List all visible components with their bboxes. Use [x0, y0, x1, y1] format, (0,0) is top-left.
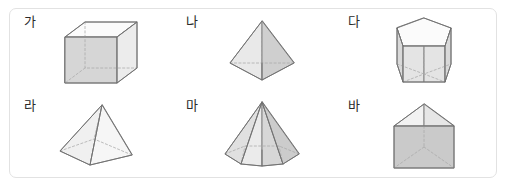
- triangular-pyramid-icon: [222, 17, 302, 89]
- square-pyramid-icon: [54, 101, 146, 173]
- figure-label-ra: 라: [24, 99, 36, 112]
- figure-cell-ba: 바: [334, 93, 496, 177]
- figure-label-da: 다: [348, 15, 360, 28]
- figure-cell-na: 나: [172, 9, 334, 93]
- triangular-prism-icon: [388, 100, 460, 174]
- figure-cell-da: 다: [334, 9, 496, 93]
- figure-cell-ga: 가: [10, 9, 172, 93]
- figure-label-na: 나: [186, 15, 198, 28]
- figure-cell-ma: 마: [172, 93, 334, 177]
- pentagonal-prism-icon: [387, 14, 461, 92]
- solid-figures-panel: 가 나: [9, 8, 497, 178]
- figure-cell-ra: 라: [10, 93, 172, 177]
- hexagonal-pyramid-icon: [219, 98, 305, 176]
- rectangular-prism-icon: [57, 17, 143, 89]
- shape-grid: 가 나: [10, 9, 496, 177]
- figure-label-ba: 바: [348, 99, 360, 112]
- figure-label-ma: 마: [186, 99, 198, 112]
- figure-label-ga: 가: [24, 15, 36, 28]
